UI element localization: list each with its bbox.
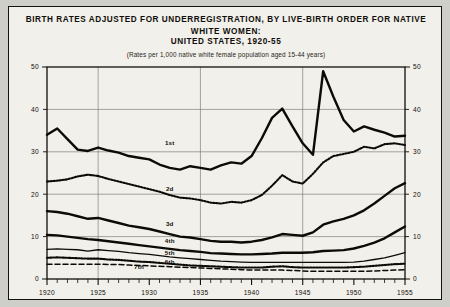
series-label-3d: 3d (166, 220, 174, 227)
x-tick-label-1925: 1925 (90, 289, 106, 296)
x-tick-label-1920: 1920 (39, 289, 55, 296)
screenshot-page: BIRTH RATES ADJUSTED FOR UNDERREGISTRATI… (0, 0, 450, 307)
series-label-4th: 4th (165, 237, 175, 244)
y-tick-label-right-50: 50 (413, 63, 421, 70)
x-tick-label-1940: 1940 (244, 289, 260, 296)
y-tick-label-right-10: 10 (413, 233, 421, 240)
chart-plot-area: 01020304050 01020304050 1920192519301935… (9, 7, 443, 301)
plot-frame (47, 67, 405, 279)
x-axis-labels: 19201925193019351940194519501955 (39, 289, 413, 296)
y-tick-label-left-10: 10 (31, 233, 39, 240)
y-axis-labels-left: 01020304050 (31, 63, 39, 282)
series-label-5th: 5th (165, 249, 175, 256)
y-tick-label-right-20: 20 (413, 191, 421, 198)
y-tick-label-right-0: 0 (413, 275, 417, 282)
y-tick-label-right-30: 30 (413, 148, 421, 155)
data-series-layer (47, 71, 405, 271)
y-tick-label-left-40: 40 (31, 106, 39, 113)
x-tick-label-1930: 1930 (141, 289, 157, 296)
series-line-1st (47, 71, 405, 169)
y-tick-label-left-50: 50 (31, 63, 39, 70)
y-tick-label-left-0: 0 (35, 275, 39, 282)
y-axis-labels-right: 01020304050 (413, 63, 421, 282)
series-label-2d: 2d (166, 185, 174, 192)
series-label-6th: 6th (165, 258, 175, 265)
series-label-1st: 1st (165, 139, 175, 146)
x-tick-label-1935: 1935 (192, 289, 208, 296)
chart-card: BIRTH RATES ADJUSTED FOR UNDERREGISTRATI… (8, 6, 442, 300)
series-label-7th: 7th (134, 263, 144, 270)
series-line-5th (47, 249, 405, 263)
y-tick-label-left-30: 30 (31, 148, 39, 155)
y-tick-label-right-40: 40 (413, 106, 421, 113)
series-line-3d (47, 183, 405, 242)
x-tick-label-1950: 1950 (346, 289, 362, 296)
y-tick-label-left-20: 20 (31, 191, 39, 198)
x-tick-label-1945: 1945 (295, 289, 311, 296)
grid-lines (47, 67, 405, 279)
birth-rate-line-chart: 01020304050 01020304050 1920192519301935… (9, 7, 443, 301)
x-tick-label-1955: 1955 (397, 289, 413, 296)
